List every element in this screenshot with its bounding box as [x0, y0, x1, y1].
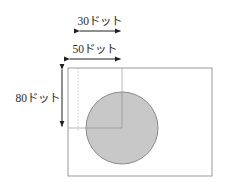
dimension-diagram: 30ドット 50ドット 80ドット: [0, 0, 227, 190]
dimension-80-label: 80ドット: [16, 92, 61, 104]
dimension-30-label: 30ドット: [78, 15, 123, 27]
dimension-50-dots: 50ドット: [70, 43, 121, 59]
dimension-50-label: 50ドット: [73, 43, 118, 55]
dimension-30-dots: 30ドット: [78, 15, 123, 31]
dimension-80-dots: 80ドット: [16, 70, 63, 127]
diagram-canvas: 30ドット 50ドット 80ドット: [0, 0, 227, 190]
